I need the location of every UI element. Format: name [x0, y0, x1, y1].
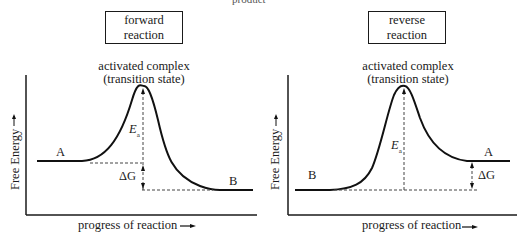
energy-diagram [262, 0, 524, 244]
x-axis-label: progress of reaction [362, 218, 461, 233]
y-axis-label: Free Energy [8, 129, 23, 190]
x-axis-label: progress of reaction [78, 218, 177, 233]
label-product: B [229, 174, 237, 189]
y-axis-label: Free Energy [268, 129, 283, 190]
label-reactant: A [56, 145, 65, 160]
label-reactant: B [308, 168, 316, 183]
delta-g-label: ΔG [119, 169, 136, 184]
label-product: A [484, 145, 493, 160]
activation-energy-label: Ea [391, 138, 402, 155]
reverse-reaction-panel: reverse reaction activated complex (tran… [262, 0, 524, 244]
forward-reaction-panel: forward reaction activated complex (tran… [0, 0, 262, 244]
activation-energy-label: Ea [129, 122, 140, 139]
delta-g-label: ΔG [478, 168, 495, 183]
